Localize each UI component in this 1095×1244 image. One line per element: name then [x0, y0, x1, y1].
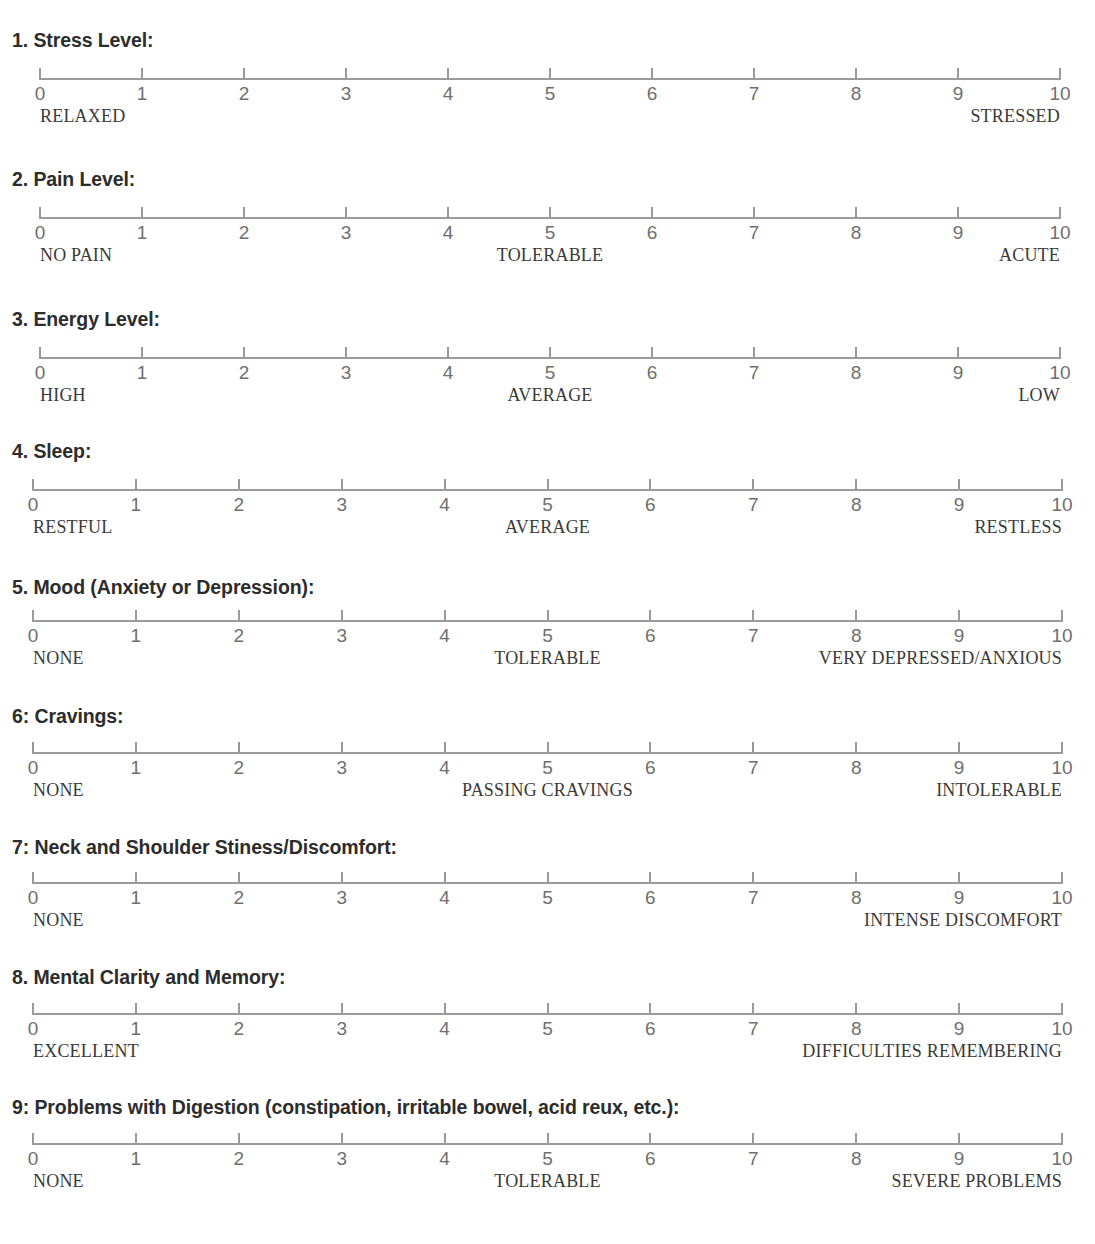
- scale-tick-label[interactable]: 5: [542, 1149, 553, 1168]
- scale-tick-label[interactable]: 7: [748, 495, 759, 514]
- scale-tick[interactable]: [547, 1133, 549, 1145]
- scale-tick[interactable]: [39, 68, 41, 80]
- scale-tick[interactable]: [341, 742, 343, 754]
- scale-tick-label[interactable]: 2: [239, 84, 250, 103]
- scale-tick-label[interactable]: 3: [341, 84, 352, 103]
- scale-tick-label[interactable]: 9: [953, 223, 964, 242]
- scale-tick[interactable]: [444, 1003, 446, 1015]
- scale-tick-label[interactable]: 2: [234, 888, 245, 907]
- scale-tick-label[interactable]: 2: [234, 1149, 245, 1168]
- scale-tick[interactable]: [444, 479, 446, 491]
- scale-tick-label[interactable]: 6: [645, 1149, 656, 1168]
- scale-tick[interactable]: [547, 742, 549, 754]
- scale-tick-label[interactable]: 0: [28, 1149, 39, 1168]
- scale-tick[interactable]: [752, 1133, 754, 1145]
- scale-tick[interactable]: [855, 742, 857, 754]
- scale-tick-label[interactable]: 1: [131, 495, 142, 514]
- scale-tick-label[interactable]: 2: [239, 223, 250, 242]
- scale-tick-label[interactable]: 8: [851, 495, 862, 514]
- scale-tick[interactable]: [753, 347, 755, 359]
- scale-tick[interactable]: [345, 347, 347, 359]
- scale-tick[interactable]: [141, 68, 143, 80]
- scale-tick-label[interactable]: 6: [647, 363, 658, 382]
- scale-tick-label[interactable]: 8: [851, 223, 862, 242]
- scale-tick-label[interactable]: 1: [137, 84, 148, 103]
- scale-tick[interactable]: [1059, 68, 1061, 80]
- scale-tick-label[interactable]: 8: [851, 363, 862, 382]
- scale-tick[interactable]: [549, 207, 551, 219]
- scale-tick[interactable]: [753, 68, 755, 80]
- scale-tick[interactable]: [135, 872, 137, 884]
- scale-tick-label[interactable]: 6: [647, 223, 658, 242]
- scale-tick[interactable]: [32, 610, 34, 622]
- scale-tick-label[interactable]: 0: [35, 223, 46, 242]
- scale-tick-label[interactable]: 3: [336, 888, 347, 907]
- scale-tick[interactable]: [957, 347, 959, 359]
- scale-tick[interactable]: [1061, 1003, 1063, 1015]
- scale-tick-label[interactable]: 9: [954, 888, 965, 907]
- scale-tick-label[interactable]: 10: [1049, 223, 1070, 242]
- scale-tick-label[interactable]: 4: [439, 626, 450, 645]
- scale-tick[interactable]: [32, 872, 34, 884]
- scale-tick[interactable]: [135, 742, 137, 754]
- scale-tick-label[interactable]: 8: [851, 888, 862, 907]
- rating-scale[interactable]: 012345678910HIGHAVERAGELOW: [0, 347, 1095, 403]
- scale-tick[interactable]: [341, 479, 343, 491]
- scale-tick-label[interactable]: 2: [234, 758, 245, 777]
- rating-scale[interactable]: 012345678910NO PAINTOLERABLEACUTE: [0, 207, 1095, 263]
- scale-tick[interactable]: [444, 872, 446, 884]
- scale-tick[interactable]: [651, 68, 653, 80]
- scale-tick[interactable]: [855, 207, 857, 219]
- scale-tick-label[interactable]: 0: [28, 495, 39, 514]
- scale-tick[interactable]: [649, 610, 651, 622]
- scale-tick[interactable]: [243, 207, 245, 219]
- scale-tick-label[interactable]: 7: [748, 626, 759, 645]
- scale-tick-label[interactable]: 9: [954, 495, 965, 514]
- scale-tick-label[interactable]: 4: [439, 495, 450, 514]
- scale-tick[interactable]: [141, 207, 143, 219]
- scale-tick[interactable]: [238, 742, 240, 754]
- scale-tick[interactable]: [649, 742, 651, 754]
- scale-tick[interactable]: [752, 742, 754, 754]
- scale-tick[interactable]: [547, 610, 549, 622]
- scale-tick[interactable]: [649, 479, 651, 491]
- scale-tick[interactable]: [1059, 347, 1061, 359]
- scale-tick-label[interactable]: 4: [439, 758, 450, 777]
- scale-tick[interactable]: [32, 742, 34, 754]
- scale-tick-label[interactable]: 0: [28, 758, 39, 777]
- scale-tick[interactable]: [243, 68, 245, 80]
- scale-tick-label[interactable]: 9: [953, 84, 964, 103]
- scale-tick[interactable]: [855, 1003, 857, 1015]
- scale-tick[interactable]: [855, 610, 857, 622]
- scale-tick[interactable]: [141, 347, 143, 359]
- scale-tick-label[interactable]: 0: [35, 363, 46, 382]
- scale-tick[interactable]: [345, 207, 347, 219]
- scale-tick-label[interactable]: 8: [851, 84, 862, 103]
- scale-tick[interactable]: [855, 479, 857, 491]
- scale-tick[interactable]: [1061, 479, 1063, 491]
- scale-tick-label[interactable]: 7: [749, 84, 760, 103]
- scale-tick[interactable]: [752, 610, 754, 622]
- scale-tick[interactable]: [752, 1003, 754, 1015]
- scale-tick[interactable]: [752, 872, 754, 884]
- scale-tick-label[interactable]: 2: [234, 495, 245, 514]
- scale-tick-label[interactable]: 6: [645, 626, 656, 645]
- scale-tick-label[interactable]: 4: [443, 363, 454, 382]
- scale-tick[interactable]: [32, 1003, 34, 1015]
- scale-tick[interactable]: [957, 68, 959, 80]
- scale-tick[interactable]: [651, 207, 653, 219]
- scale-tick[interactable]: [649, 1133, 651, 1145]
- scale-tick-label[interactable]: 5: [545, 223, 556, 242]
- scale-tick-label[interactable]: 3: [336, 758, 347, 777]
- scale-tick-label[interactable]: 6: [647, 84, 658, 103]
- scale-tick-label[interactable]: 3: [341, 363, 352, 382]
- scale-tick-label[interactable]: 0: [35, 84, 46, 103]
- scale-tick-label[interactable]: 7: [748, 1019, 759, 1038]
- scale-tick-label[interactable]: 1: [131, 1149, 142, 1168]
- scale-tick[interactable]: [444, 610, 446, 622]
- rating-scale[interactable]: 012345678910NONEPASSING CRAVINGSINTOLERA…: [0, 742, 1095, 798]
- scale-tick[interactable]: [1061, 1133, 1063, 1145]
- scale-tick[interactable]: [341, 1003, 343, 1015]
- scale-tick[interactable]: [135, 1133, 137, 1145]
- scale-tick[interactable]: [547, 479, 549, 491]
